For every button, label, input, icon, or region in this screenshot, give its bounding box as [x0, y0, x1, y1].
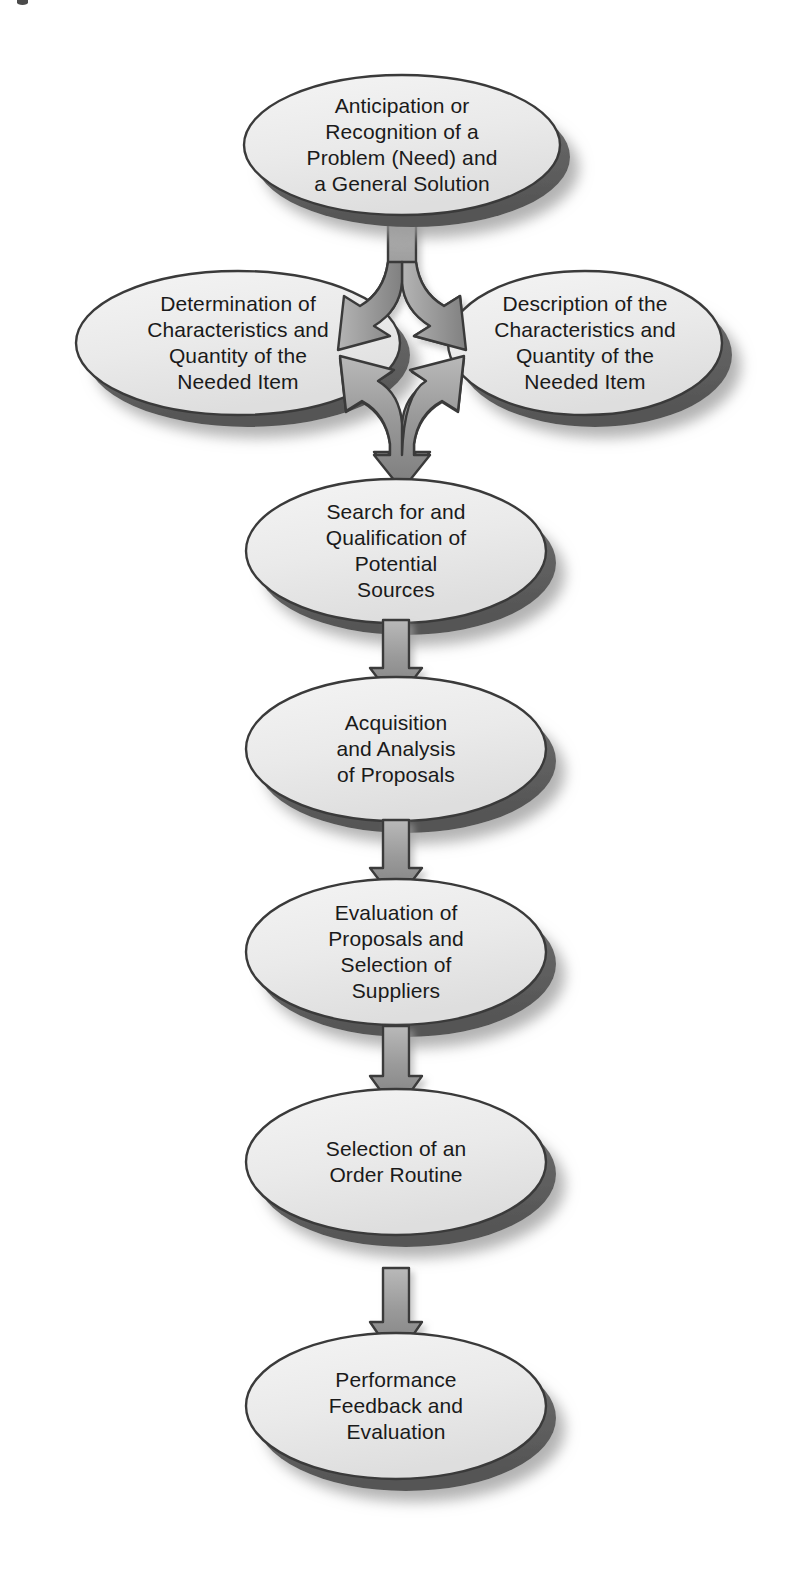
node-description [448, 271, 732, 427]
node-acquisition [246, 677, 556, 833]
node-order-routine [246, 1089, 556, 1247]
node-anticipation [244, 75, 570, 227]
node-evaluation [246, 879, 556, 1037]
node-performance [246, 1333, 556, 1491]
flowchart-diagram: Anticipation or Recognition of a Problem… [0, 0, 789, 1590]
flowchart-canvas [0, 0, 789, 1590]
node-search [246, 479, 556, 635]
